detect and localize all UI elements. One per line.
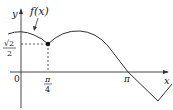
function-graph: f(x) y x 0 √2 2 π 4 π [0, 0, 173, 110]
label-pointer-arrow [35, 18, 38, 28]
origin-label: 0 [14, 74, 20, 84]
marked-point [46, 42, 50, 46]
x-tick-pi-over-4-numerator: π [44, 75, 51, 84]
x-tick-pi: π [123, 74, 131, 84]
function-curve [8, 31, 172, 101]
x-tick-pi-over-4-denominator: 4 [45, 85, 50, 94]
y-tick-denominator: 2 [7, 49, 12, 58]
label-pointer-arrowhead-icon [33, 26, 37, 31]
x-axis-arrow-icon [163, 70, 169, 74]
y-axis-label: y [11, 8, 18, 19]
function-label: f(x) [29, 5, 49, 18]
y-tick-numerator: √2 [4, 39, 14, 48]
y-axis-arrow-icon [19, 8, 23, 14]
x-axis-label: x [164, 75, 170, 86]
